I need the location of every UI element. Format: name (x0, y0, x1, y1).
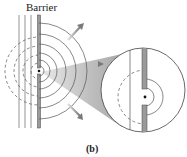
inset-aperture-point (144, 96, 147, 99)
arrow-lower-right-icon (68, 104, 83, 120)
diffraction-figure: Barrier (b) (0, 0, 187, 157)
diagram-canvas (0, 0, 187, 157)
barrier-label: Barrier (26, 1, 57, 13)
panel-label: (b) (86, 143, 98, 154)
arrow-upper-right-icon (68, 23, 84, 40)
aperture-point (38, 70, 41, 73)
barrier (19, 15, 41, 128)
